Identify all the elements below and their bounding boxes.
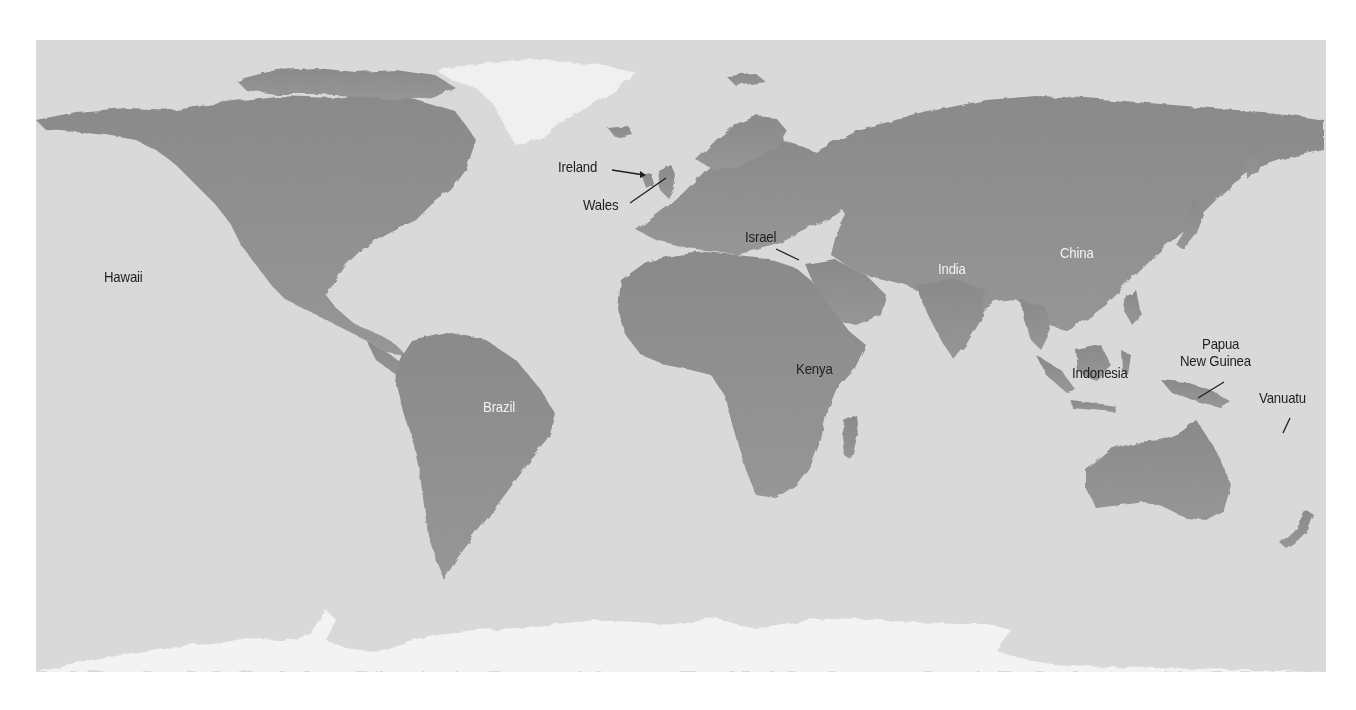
- label-vanuatu: Vanuatu: [1259, 389, 1306, 406]
- leader-line-ireland: [612, 170, 644, 175]
- label-india: India: [938, 260, 966, 277]
- label-wales: Wales: [583, 196, 618, 213]
- leader-line-vanuatu: [1283, 418, 1290, 433]
- label-indonesia: Indonesia: [1072, 364, 1128, 381]
- label-new-guinea: New Guinea: [1180, 352, 1251, 369]
- leader-line-israel: [776, 249, 799, 260]
- label-ireland: Ireland: [558, 158, 597, 175]
- leader-line-papua-new-guinea: [1198, 382, 1224, 398]
- label-hawaii: Hawaii: [104, 268, 143, 285]
- label-papua: Papua: [1202, 335, 1239, 352]
- label-israel: Israel: [745, 228, 776, 245]
- arrowhead-ireland: [640, 171, 646, 178]
- label-brazil: Brazil: [483, 398, 515, 415]
- leader-lines: [36, 40, 1326, 672]
- leader-line-wales: [630, 178, 666, 203]
- label-china: China: [1060, 244, 1094, 261]
- label-kenya: Kenya: [796, 360, 833, 377]
- world-map: [36, 40, 1326, 672]
